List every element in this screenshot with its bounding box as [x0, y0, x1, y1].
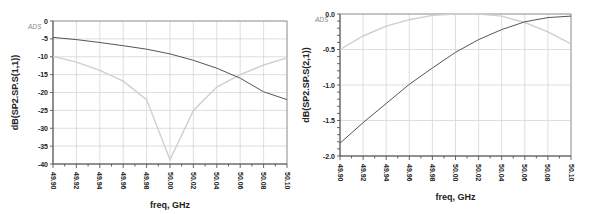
y-tick-label: -2.0	[323, 153, 335, 160]
grid	[53, 21, 287, 164]
s11-plot: 0-5-10-15-20-25-30-35-4049.9049.9249.944…	[0, 0, 297, 214]
x-tick-label: 49.90	[337, 164, 344, 182]
x-tick-label: 49.98	[143, 172, 150, 190]
x-tick-label: 50.04	[498, 164, 505, 182]
x-tick-label: 50.10	[284, 172, 291, 190]
ads-corner-label: ADS	[27, 23, 42, 30]
s21-plot: 0.0-0.5-1.0-1.5-2.049.9049.9249.9449.964…	[297, 0, 595, 214]
x-tick-label: 49.90	[50, 172, 57, 190]
x-tick-label: 49.92	[73, 172, 80, 190]
s11-chart: 0-5-10-15-20-25-30-35-4049.9049.9249.944…	[0, 0, 297, 214]
y-tick-label: -40	[38, 161, 48, 168]
x-tick-label: 49.96	[120, 172, 127, 190]
x-tick-label: 50.00	[167, 172, 174, 190]
x-tick-label: 50.06	[521, 164, 528, 182]
s21-chart: 0.0-0.5-1.0-1.5-2.049.9049.9249.9449.964…	[297, 0, 594, 214]
x-tick-label: 50.06	[237, 172, 244, 190]
x-axis-title: freq, GHz	[435, 192, 476, 202]
y-tick-label: -20	[38, 89, 48, 96]
y-tick-label: -5	[42, 35, 48, 42]
y-tick-label: -1.0	[323, 82, 335, 89]
grid	[340, 14, 571, 156]
x-tick-label: 49.96	[406, 164, 413, 182]
x-tick-label: 50.08	[544, 164, 551, 182]
ads-corner-label: ADS	[314, 16, 329, 23]
y-tick-label: -10	[38, 53, 48, 60]
x-tick-label: 49.94	[96, 172, 103, 190]
x-tick-label: 50.02	[475, 164, 482, 182]
x-tick-label: 50.10	[568, 164, 575, 182]
y-tick-label: 0	[44, 18, 48, 25]
x-tick-label: 50.00	[452, 164, 459, 182]
x-tick-label: 49.92	[360, 164, 367, 182]
y-tick-label: -1.5	[323, 117, 335, 124]
x-tick-label: 49.94	[383, 164, 390, 182]
x-tick-label: 50.08	[260, 172, 267, 190]
y-axis-title: dB(SP2.SP.S(2,1))	[301, 47, 311, 122]
y-axis-title: dB(SP2.SP.S(1,1))	[10, 55, 20, 130]
x-axis-title: freq, GHz	[150, 200, 191, 210]
x-tick-label: 50.02	[190, 172, 197, 190]
x-tick-label: 49.98	[429, 164, 436, 182]
y-tick-label: -25	[38, 107, 48, 114]
y-tick-label: -0.5	[323, 46, 335, 53]
x-tick-label: 50.04	[213, 172, 220, 190]
y-tick-label: -30	[38, 125, 48, 132]
y-tick-label: -35	[38, 143, 48, 150]
y-tick-label: -15	[38, 71, 48, 78]
